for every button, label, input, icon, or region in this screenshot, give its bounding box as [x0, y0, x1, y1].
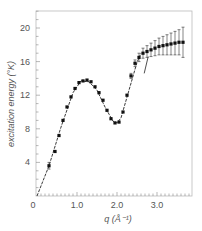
data-point	[101, 99, 104, 102]
data-point	[161, 36, 164, 54]
data-point	[93, 85, 96, 88]
data-point	[125, 94, 128, 97]
y-axis-title: excitation energy (°K)	[6, 61, 16, 147]
x-axis-ticks: 01.02.03.0	[30, 192, 189, 210]
data-point	[81, 79, 84, 82]
theory-curve	[37, 53, 141, 196]
data-points	[47, 27, 184, 169]
data-point	[145, 46, 148, 58]
y-tick-label: 8	[25, 124, 30, 134]
data-point	[165, 35, 168, 55]
y-axis-ticks: 48121620	[20, 11, 40, 187]
data-point	[69, 95, 72, 98]
data-point	[85, 78, 88, 81]
data-point	[61, 119, 64, 122]
data-point	[149, 43, 152, 56]
data-point	[109, 117, 112, 120]
data-point	[89, 80, 92, 83]
data-point	[53, 150, 56, 153]
data-point	[77, 81, 80, 84]
x-tick-label: 0	[30, 200, 35, 210]
data-point	[121, 110, 124, 113]
plot-frame	[36, 11, 192, 196]
y-tick-label: 12	[20, 90, 30, 100]
data-point	[157, 38, 160, 55]
data-point	[65, 105, 68, 108]
data-point	[73, 87, 76, 90]
data-point	[169, 33, 172, 55]
data-point	[129, 73, 132, 78]
x-tick-label: 3.0	[151, 200, 164, 210]
data-point	[173, 31, 176, 55]
data-point	[141, 48, 144, 58]
data-point	[153, 41, 156, 56]
dispersion-chart: 48121620 01.02.03.0 excitation energy (°…	[0, 0, 202, 231]
data-point	[133, 60, 136, 67]
data-point	[181, 27, 184, 57]
x-axis-title: q (Å⁻¹)	[104, 214, 132, 224]
data-point	[105, 109, 108, 112]
x-tick-label: 1.0	[71, 200, 84, 210]
theory-line	[37, 53, 141, 196]
data-point	[117, 120, 120, 123]
y-tick-label: 16	[20, 57, 30, 67]
annotations	[144, 57, 148, 74]
y-tick-label: 4	[25, 157, 30, 167]
data-point	[97, 91, 100, 94]
data-point	[177, 30, 180, 55]
data-point	[113, 121, 116, 124]
x-tick-label: 2.0	[111, 200, 124, 210]
y-tick-label: 20	[20, 23, 30, 33]
annotation-stroke	[144, 57, 148, 74]
data-point	[57, 134, 60, 137]
